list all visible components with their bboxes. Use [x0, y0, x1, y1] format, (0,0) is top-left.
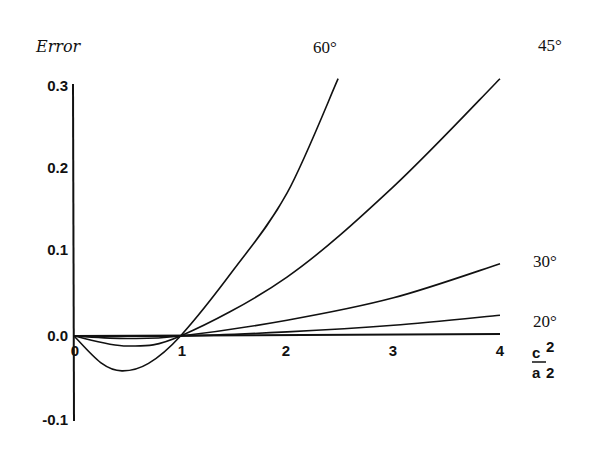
curve-series — [74, 79, 338, 371]
y-ticks: 0.3 0.2 0.1 0.0 -0.1 — [42, 77, 68, 428]
x-label-denominator-exp: 2 — [546, 364, 554, 381]
series-label-45: 45° — [538, 36, 562, 55]
x-ticks: 0 1 2 3 4 — [71, 342, 505, 359]
y-tick-label: 0.0 — [47, 327, 68, 344]
curve-series — [74, 264, 500, 339]
x-tick-label: 0 — [71, 342, 79, 359]
x-label-numerator: c — [532, 344, 540, 361]
y-tick-label: 0.2 — [47, 159, 68, 176]
x-label-numerator-exp: 2 — [546, 338, 554, 355]
curve-series — [74, 315, 500, 336]
y-axis-title: Error — [35, 37, 82, 56]
series-label-20: 20° — [533, 312, 557, 331]
y-tick-label: 0.3 — [47, 77, 68, 94]
series-label-30: 30° — [533, 252, 557, 271]
curves — [74, 79, 500, 371]
error-chart: Error 0.3 0.2 0.1 0.0 -0.1 0 1 2 3 4 60°… — [0, 0, 593, 449]
x-label-denominator: a — [532, 364, 541, 381]
series-label-60: 60° — [313, 38, 337, 57]
y-axis — [73, 84, 74, 421]
curve-series — [74, 79, 500, 346]
x-tick-label: 3 — [389, 342, 397, 359]
x-axis-title: c 2 a 2 — [532, 338, 554, 381]
y-tick-label: 0.1 — [47, 241, 68, 258]
y-tick-label: -0.1 — [42, 411, 68, 428]
x-tick-label: 1 — [178, 342, 186, 359]
x-tick-label: 2 — [282, 342, 290, 359]
x-tick-label: 4 — [496, 342, 505, 359]
